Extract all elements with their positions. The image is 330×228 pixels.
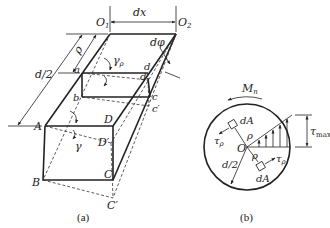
rho-bottom-label: ρ [251, 150, 258, 161]
mn-label: Mn [241, 82, 258, 96]
tau-right-label: τρ [276, 153, 287, 166]
d-half-label: d/2 [35, 68, 53, 81]
center-O-label: O [237, 142, 246, 155]
right-back-edge [113, 34, 176, 180]
point-C-prime-label: C′ [107, 199, 118, 212]
point-a-label: a [74, 64, 80, 75]
point-D-label: D [103, 113, 113, 126]
gamma-label: γ [75, 140, 82, 153]
point-A-label: A [33, 120, 42, 133]
rho-top-label: ρ [246, 130, 253, 141]
gamma-rho-arc [104, 58, 110, 70]
o2-label: O2 [178, 16, 192, 30]
front-face [43, 126, 113, 180]
dashed-bc-prime [82, 97, 149, 106]
gamma-arc-top [70, 111, 76, 123]
gamma-rho-label: γρ [113, 54, 125, 68]
point-d-prime-label: d′ [140, 71, 149, 82]
caption-b: (b) [240, 211, 253, 224]
point-D-prime-label: D′ [97, 136, 110, 149]
point-B-label: B [31, 176, 40, 189]
dA-top-label: dA [240, 115, 254, 126]
o1-label: O1 [96, 16, 110, 30]
gamma-rho-arc-inner [104, 76, 107, 86]
d-half-label-b: d/2 [222, 159, 238, 170]
torsion-diagram: dx O1 O2 d/2 ρ [0, 0, 330, 228]
dx-label: dx [133, 6, 147, 19]
dA-element-bottom [256, 161, 266, 171]
dashed-BC-prime [43, 180, 113, 198]
mn-arrow [228, 97, 262, 100]
dA-element-top [228, 119, 238, 129]
caption-a: (a) [77, 211, 90, 224]
point-C-label: C [104, 168, 113, 181]
point-c-label: c [152, 91, 158, 102]
tau-max-label: τmax [310, 125, 330, 139]
dashed-right-deformed-2 [111, 34, 176, 143]
dashed-hidden-edge [43, 34, 110, 180]
tau-arrow-left [219, 128, 229, 134]
figure-b: Mn τmax dA dA τρ τρ ρ ρ O d/2 (b) [204, 82, 330, 224]
gamma-arc [73, 130, 75, 139]
tau-left-label: τρ [214, 135, 225, 148]
dphi-label: dφ [150, 36, 165, 49]
stress-envelope [247, 115, 292, 147]
tau-arrow-right [265, 158, 275, 164]
point-b-label: b [73, 92, 79, 103]
figure-a: dx O1 O2 d/2 ρ [8, 6, 192, 224]
dA-bottom-label: dA [256, 173, 270, 184]
dphi-tick [165, 72, 180, 78]
point-c-prime-label: c′ [152, 103, 161, 114]
dashed-ad-prime [82, 73, 148, 80]
